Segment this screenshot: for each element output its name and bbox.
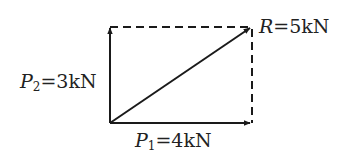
p2-label: P2=3kN	[19, 70, 97, 94]
r-label: R=5kN	[258, 15, 329, 37]
p1-label: P1=4kN	[134, 129, 212, 153]
r-arrow	[110, 28, 250, 123]
force-diagram: R=5kN P2=3kN P1=4kN	[0, 0, 353, 158]
